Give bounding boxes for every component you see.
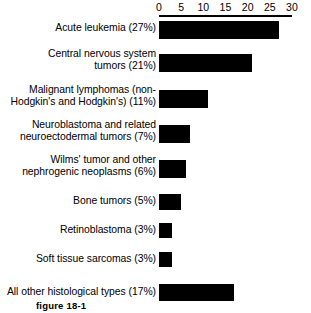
bar-category-label: Acute leukemia (27%): [0, 22, 156, 34]
bar-track: [159, 284, 292, 301]
bar-chart: 051015202530 Acute leukemia (27%)Central…: [0, 0, 311, 313]
bar: [159, 194, 181, 210]
x-axis-tick-labels: 051015202530: [159, 1, 292, 14]
bar-category-label: All other histological types (17%): [0, 286, 156, 298]
figure-container: 051015202530 Acute leukemia (27%)Central…: [0, 0, 311, 313]
bar-category-label: Neuroblastoma and related neuroectoderma…: [0, 119, 156, 144]
bar: [159, 21, 279, 39]
bar-category-label: Soft tissue sarcomas (3%): [0, 253, 156, 265]
bar-category-label: Retinoblastoma (3%): [0, 224, 156, 236]
bar: [159, 54, 252, 72]
x-tick-label: 25: [260, 1, 280, 13]
bar: [159, 284, 234, 301]
x-tick-label: 20: [238, 1, 258, 13]
bar-track: [159, 54, 292, 72]
bar: [159, 125, 190, 143]
bar: [159, 160, 186, 178]
x-tick-label: 5: [171, 1, 191, 13]
bar-category-label: Malignant lymphomas (non- Hodgkin's and …: [0, 84, 156, 109]
x-tick-label: 10: [193, 1, 213, 13]
bar-category-label: Wilms' tumor and other nephrogenic neopl…: [0, 154, 156, 179]
x-tick-label: 0: [149, 1, 169, 13]
bar-track: [159, 90, 292, 108]
bar-track: [159, 125, 292, 143]
bar: [159, 252, 172, 267]
bar-track: [159, 194, 292, 210]
bar-track: [159, 160, 292, 178]
bar-track: [159, 21, 292, 39]
x-axis-line: [159, 15, 292, 17]
bar-category-label: Bone tumors (5%): [0, 195, 156, 207]
figure-caption: figure 18-1: [36, 300, 86, 311]
bar-track: [159, 252, 292, 267]
bar-category-label: Central nervous system tumors (21%): [0, 48, 156, 73]
bar-track: [159, 223, 292, 238]
x-tick-label: 30: [282, 1, 302, 13]
bar: [159, 223, 172, 238]
x-tick-label: 15: [216, 1, 236, 13]
bar: [159, 90, 208, 108]
